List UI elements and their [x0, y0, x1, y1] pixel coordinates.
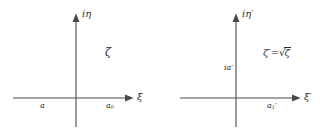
- zeta-prime-plane-axes: [167, 0, 334, 137]
- imaginary-axis-label: iη′: [242, 9, 253, 19]
- real-axis-label: ξ′: [304, 92, 312, 102]
- mapping-equation: ζ′=√ζ: [263, 47, 291, 58]
- complex-plane-mapping-figure: iη ξ ζ a a0 iη′ ξ′ ζ′=√ζ ia′ a1′: [0, 0, 334, 137]
- panel-zeta-plane: iη ξ ζ a a0: [0, 0, 167, 137]
- tick-label-a0: a0: [106, 102, 114, 110]
- imaginary-axis-label: iη: [82, 9, 91, 19]
- tick-label-a: a: [40, 102, 45, 110]
- plane-label-zeta: ζ: [105, 47, 111, 58]
- tick-label-ia-prime: ia′: [224, 64, 233, 72]
- zeta-plane-axes: [0, 0, 167, 137]
- panel-zeta-prime-plane: iη′ ξ′ ζ′=√ζ ia′ a1′: [167, 0, 334, 137]
- tick-label-a1-prime: a1′: [267, 102, 277, 110]
- real-axis-label: ξ: [137, 92, 143, 102]
